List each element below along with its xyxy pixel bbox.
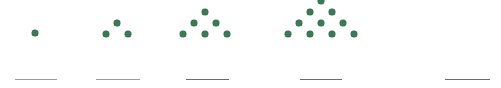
figure-3-dot-field xyxy=(165,0,265,50)
answer-blank-3[interactable] xyxy=(186,79,229,80)
dot-marker xyxy=(125,31,131,37)
dot-marker xyxy=(351,31,357,37)
dot-pattern-worksheet: Triangular number dot pattern sequence xyxy=(0,0,501,88)
dot-marker xyxy=(296,20,302,26)
answer-blank-1[interactable] xyxy=(15,79,57,80)
dot-marker xyxy=(202,31,208,37)
figure-3 xyxy=(165,0,265,88)
dot-marker xyxy=(318,0,324,4)
figure-4 xyxy=(265,0,380,88)
dot-marker xyxy=(213,20,219,26)
dot-marker xyxy=(307,9,313,15)
figure-1-dot-field xyxy=(0,0,80,50)
figure-1 xyxy=(0,0,80,88)
answer-blank-5[interactable] xyxy=(445,79,490,80)
answer-blank-4[interactable] xyxy=(300,79,342,80)
figure-4-dot-field xyxy=(265,0,380,50)
figure-2 xyxy=(80,0,165,88)
figure-2-dot-field xyxy=(80,0,165,50)
dot-marker xyxy=(329,9,335,15)
dot-marker xyxy=(318,20,324,26)
dot-marker xyxy=(202,9,208,15)
figure-5 xyxy=(380,0,501,88)
dot-marker xyxy=(340,20,346,26)
dot-marker xyxy=(285,31,291,37)
answer-blank-2[interactable] xyxy=(96,79,140,80)
dot-marker xyxy=(224,31,230,37)
dot-marker xyxy=(180,31,186,37)
dot-marker xyxy=(32,30,38,36)
dot-marker xyxy=(307,31,313,37)
dot-marker xyxy=(103,31,109,37)
dot-marker xyxy=(329,31,335,37)
dot-marker xyxy=(191,20,197,26)
figure-5-dot-field xyxy=(380,0,501,50)
dot-marker xyxy=(114,20,120,26)
